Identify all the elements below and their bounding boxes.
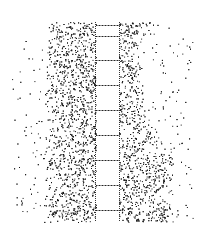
stipple-canvas <box>0 0 206 237</box>
